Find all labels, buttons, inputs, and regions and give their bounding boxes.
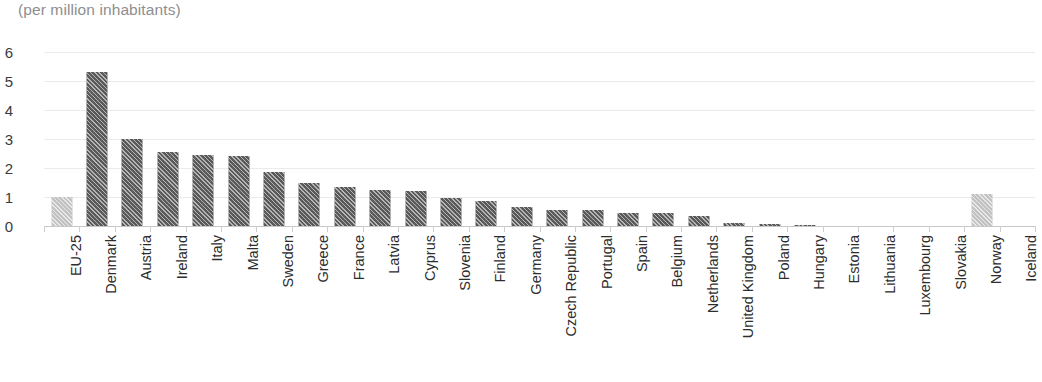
x-axis-tick	[964, 226, 965, 232]
plot-area: 0123456	[44, 52, 1035, 226]
x-axis-tick	[858, 226, 859, 232]
x-axis-tick	[292, 226, 293, 232]
bar-portugal[interactable]	[582, 210, 603, 226]
y-axis-tick-label: 6	[0, 45, 13, 60]
bar-austria[interactable]	[122, 139, 143, 226]
bar-slot	[292, 52, 327, 226]
x-axis-label-slot: Luxembourg	[893, 233, 928, 373]
x-axis-label-slot: Slovenia	[433, 233, 468, 373]
x-axis-tick	[221, 226, 222, 232]
x-axis-tick	[575, 226, 576, 232]
bar-slot	[929, 52, 964, 226]
bar-slot	[787, 52, 822, 226]
x-axis-label-slot: Ireland	[150, 233, 185, 373]
x-axis-label-slot: Latvia	[363, 233, 398, 373]
bar-germany[interactable]	[511, 207, 532, 226]
x-axis-label-slot: France	[327, 233, 362, 373]
bar-slot	[256, 52, 291, 226]
x-axis-tick	[256, 226, 257, 232]
x-axis-label-slot: Sweden	[256, 233, 291, 373]
x-axis-label-iceland: Iceland	[1025, 235, 1040, 282]
x-axis-tick	[787, 226, 788, 232]
x-axis-label-slot: Spain	[610, 233, 645, 373]
x-axis-label-slot: Slovakia	[929, 233, 964, 373]
x-axis-tick	[540, 226, 541, 232]
bar-slot	[504, 52, 539, 226]
x-axis-tick	[893, 226, 894, 232]
y-axis-tick-label: 5	[0, 74, 13, 89]
x-axis-tick	[44, 226, 45, 232]
x-axis-tick	[504, 226, 505, 232]
bar-slot	[681, 52, 716, 226]
bar-slot	[469, 52, 504, 226]
y-axis-tick-label: 0	[0, 219, 13, 234]
chart-title: (per million inhabitants)	[18, 1, 181, 19]
bar-series	[44, 52, 1035, 226]
x-axis-label-slot: Czech Republic	[540, 233, 575, 373]
x-axis-label-slot: Norway	[964, 233, 999, 373]
bar-czech-republic[interactable]	[547, 210, 568, 226]
bar-slot	[433, 52, 468, 226]
bar-spain[interactable]	[617, 213, 638, 226]
bar-finland[interactable]	[476, 201, 497, 226]
x-axis-tick	[646, 226, 647, 232]
x-axis-tick	[115, 226, 116, 232]
bar-slot	[44, 52, 79, 226]
x-axis-label-slot: Italy	[186, 233, 221, 373]
bar-belgium[interactable]	[653, 213, 674, 226]
bar-chart: (per million inhabitants) 0123456 EU-25D…	[0, 0, 1042, 382]
bar-italy[interactable]	[193, 155, 214, 226]
x-axis-label-slot: Greece	[292, 233, 327, 373]
bar-malta[interactable]	[228, 156, 249, 226]
bar-france[interactable]	[334, 187, 355, 226]
x-axis-label-slot: Hungary	[787, 233, 822, 373]
x-axis-label-slot: Germany	[504, 233, 539, 373]
bar-sweden[interactable]	[264, 172, 285, 226]
x-axis-label-slot: EU-25	[44, 233, 79, 373]
bar-slot	[964, 52, 999, 226]
y-axis-tick-label: 3	[0, 132, 13, 147]
x-axis-label-slot: Cyprus	[398, 233, 433, 373]
bar-slot	[115, 52, 150, 226]
x-axis-tick	[716, 226, 717, 232]
bar-greece[interactable]	[299, 183, 320, 227]
bar-cyprus[interactable]	[405, 191, 426, 226]
x-axis-label-slot: Netherlands	[681, 233, 716, 373]
bar-slot	[823, 52, 858, 226]
bar-slot	[752, 52, 787, 226]
bar-slot	[858, 52, 893, 226]
x-axis-tick	[327, 226, 328, 232]
x-axis-tick	[363, 226, 364, 232]
y-axis-tick-label: 1	[0, 190, 13, 205]
bar-slot	[327, 52, 362, 226]
x-axis-tick	[150, 226, 151, 232]
bar-slot	[646, 52, 681, 226]
y-axis-tick-label: 2	[0, 161, 13, 176]
x-axis-tick	[610, 226, 611, 232]
bar-ireland[interactable]	[157, 152, 178, 226]
bar-slot	[186, 52, 221, 226]
x-axis-label-slot: Poland	[752, 233, 787, 373]
x-axis-tick	[823, 226, 824, 232]
x-axis-label-slot: Iceland	[1000, 233, 1035, 373]
bar-slot	[150, 52, 185, 226]
x-axis-label-slot: Denmark	[79, 233, 114, 373]
bar-slot	[398, 52, 433, 226]
x-axis-label-slot: Belgium	[646, 233, 681, 373]
x-axis-label-slot: Lithuania	[858, 233, 893, 373]
bar-slot	[716, 52, 751, 226]
bar-eu-25[interactable]	[51, 197, 72, 226]
bar-slot	[540, 52, 575, 226]
bar-denmark[interactable]	[87, 72, 108, 226]
bar-norway[interactable]	[971, 194, 992, 226]
bar-slot	[221, 52, 256, 226]
x-axis-label-slot: Austria	[115, 233, 150, 373]
bar-slovenia[interactable]	[441, 198, 462, 226]
x-axis-tick	[1000, 226, 1001, 232]
x-axis-tick	[929, 226, 930, 232]
x-axis-tick	[79, 226, 80, 232]
bar-netherlands[interactable]	[688, 216, 709, 226]
x-axis-tick	[681, 226, 682, 232]
x-axis-label-slot: Estonia	[823, 233, 858, 373]
bar-latvia[interactable]	[370, 190, 391, 226]
